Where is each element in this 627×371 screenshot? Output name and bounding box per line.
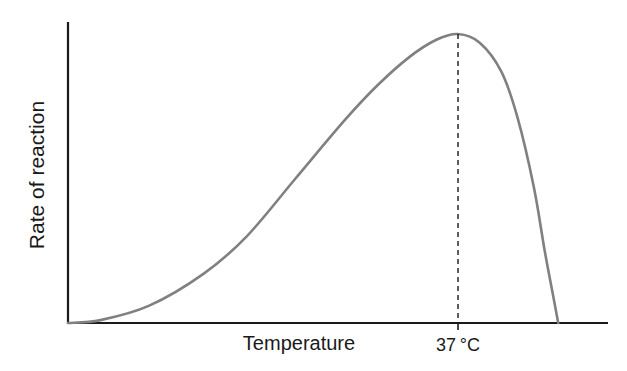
x-axis-label: Temperature xyxy=(243,332,355,354)
y-axis-label: Rate of reaction xyxy=(25,101,48,249)
rate-curve xyxy=(68,34,558,323)
chart: Rate of reaction Temperature 37 °C xyxy=(0,0,627,371)
peak-temperature-label: 37 °C xyxy=(436,335,480,355)
